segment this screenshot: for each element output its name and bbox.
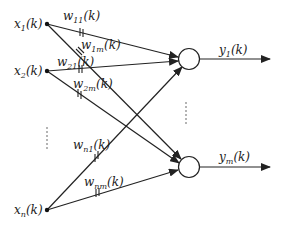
- input-label-xn: xn(k): [14, 203, 43, 219]
- tick-wn1: [95, 151, 98, 162]
- output-label-ym: ym(k): [218, 150, 250, 166]
- input-node-x2: [45, 69, 49, 73]
- weight-label-wn1: wn1(k): [73, 138, 110, 154]
- weight-label-wnm: wnm(k): [84, 175, 124, 191]
- weight-label-w11: w11(k): [63, 9, 100, 25]
- input-node-xn: [45, 208, 49, 212]
- output-label-y1: y1(k): [218, 43, 248, 59]
- weight-label-w1m: w1m(k): [81, 38, 121, 54]
- input-label-x2: x2(k): [14, 64, 43, 80]
- input-label-x1: x1(k): [14, 17, 43, 33]
- output-ellipsis: [185, 102, 187, 124]
- input-ellipsis: [46, 127, 48, 149]
- weight-label-w21: w21(k): [57, 55, 94, 71]
- edge-x2-ym: [47, 71, 179, 163]
- input-nodes: [45, 22, 49, 212]
- neural-network-diagram: x1(k) x2(k) xn(k) w11(k) w1m(k) w21(k) w…: [0, 0, 283, 230]
- weight-label-w2m: w2m(k): [73, 77, 113, 93]
- output-neuron-ym: [179, 157, 200, 178]
- output-neuron-y1: [179, 49, 200, 70]
- input-node-x1: [45, 22, 49, 26]
